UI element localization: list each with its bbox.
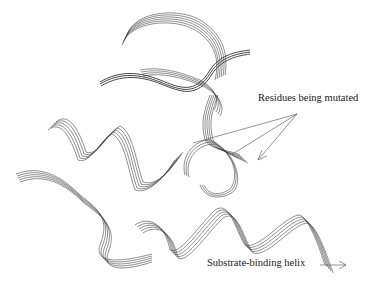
ribbon-bottom-left xyxy=(16,171,152,268)
ribbon-center xyxy=(203,95,248,163)
ribbon-central-loop xyxy=(184,140,238,197)
ribbon-top-loop xyxy=(100,50,250,116)
label-residues-mutated: Residues being mutated xyxy=(258,92,358,103)
annotation-arrows-mutated xyxy=(193,114,297,160)
ribbon-left-helix xyxy=(48,119,183,191)
label-substrate-binding-helix: Substrate-binding helix xyxy=(207,257,305,268)
ribbon-diagram xyxy=(0,0,385,284)
